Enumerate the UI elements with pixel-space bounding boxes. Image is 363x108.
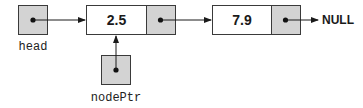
node-1-next-arrow xyxy=(158,17,211,22)
node-2-null-arrow xyxy=(283,17,318,22)
nodeptr-arrow xyxy=(113,36,118,73)
head-arrow xyxy=(30,17,85,22)
linked-list-diagram: head 2.5 nodePtr 7.9 NULL xyxy=(0,0,363,108)
pointer-arrows xyxy=(0,0,363,108)
